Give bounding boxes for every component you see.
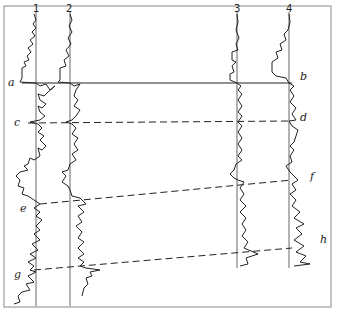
- marker-d-label: d: [300, 111, 307, 124]
- well-3-log-curve: [230, 14, 258, 266]
- marker-c-label: c: [14, 116, 20, 129]
- diagram-frame: [4, 6, 331, 307]
- well-4-log-curve: [272, 14, 310, 266]
- correlation-line-e-f: [40, 180, 292, 204]
- marker-e-label: e: [20, 202, 27, 215]
- well-2-label: 2: [66, 3, 72, 14]
- marker-g-label: g: [14, 268, 21, 281]
- well-2-log-curve: [58, 14, 100, 296]
- well-log-correlation-diagram: 1 2 3 4 a b c d e f g h: [0, 0, 340, 314]
- marker-h-label: h: [320, 233, 327, 246]
- well-1-log-curve: [14, 14, 55, 304]
- marker-b-label: b: [300, 70, 307, 83]
- well-1-label: 1: [33, 3, 39, 14]
- well-4-label: 4: [286, 3, 292, 14]
- correlation-line-g-h: [34, 248, 292, 270]
- marker-f-label: f: [309, 170, 316, 183]
- well-3-label: 3: [234, 3, 240, 14]
- marker-a-label: a: [8, 76, 15, 89]
